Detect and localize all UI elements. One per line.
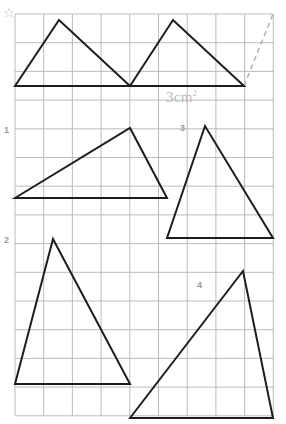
star-icon [3,5,15,17]
area-annotation-value: 3cm [166,89,193,105]
worksheet-canvas [0,0,286,424]
area-annotation: 3cm2 [166,90,197,105]
shape-number-label-2: 2 [4,236,9,245]
dashed-diagonal-group [244,14,273,86]
dashed-diagonal [244,14,273,86]
triangle-middle-right [167,126,273,238]
shape-number-label-1: 1 [4,126,9,135]
triangle-bottom-right [130,271,273,418]
area-annotation-exponent: 2 [193,89,197,98]
shape-number-label-4: 4 [197,281,202,290]
grid-lines [15,14,273,416]
shape-number-label-3: 3 [180,124,185,133]
triangle-middle-left [15,128,167,198]
